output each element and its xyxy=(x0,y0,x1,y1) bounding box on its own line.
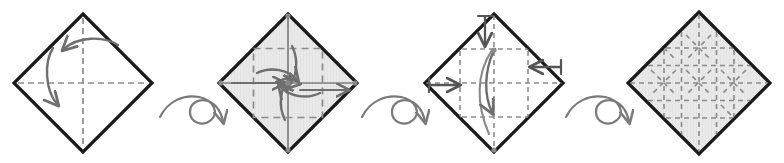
vertex-dot-bottom xyxy=(491,147,496,152)
vertex-dot-bottom xyxy=(285,147,290,152)
vertex-dot-top xyxy=(285,13,290,18)
vertex-dot-right xyxy=(352,80,357,85)
diagram-canvas xyxy=(0,0,784,163)
vertex-dot-center xyxy=(285,80,290,85)
vertex-dot-top-center xyxy=(491,47,496,52)
vertex-dot-left xyxy=(218,80,223,85)
origami-diagram: Origami crease-pattern folding sequence … xyxy=(0,0,784,163)
